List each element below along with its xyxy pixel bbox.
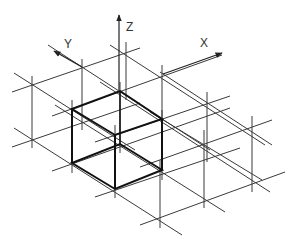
x-axis-arrow xyxy=(163,53,222,74)
grid-drawing xyxy=(0,0,294,239)
axis-arrows xyxy=(54,15,222,90)
z-axis-label: Z xyxy=(126,21,133,33)
vertical-posts xyxy=(32,42,252,228)
y-axis-label: Y xyxy=(64,38,72,50)
cube-outline xyxy=(72,91,162,189)
x-axis-label: X xyxy=(200,37,208,49)
bottom-grid-lines xyxy=(12,82,285,235)
diagram-canvas: Z Y X xyxy=(0,0,294,239)
y-axis-arrow xyxy=(54,51,82,67)
